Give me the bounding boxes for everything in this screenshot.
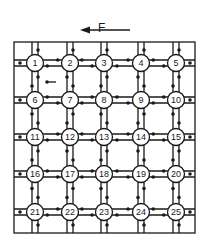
- connector-dot: [30, 112, 34, 116]
- node-14: 14: [133, 129, 150, 146]
- node-19: 19: [133, 166, 150, 183]
- node-label: 21: [30, 207, 40, 217]
- connector-dot: [99, 84, 103, 88]
- arrow-head-icon: [80, 27, 90, 34]
- connector-dot: [142, 112, 146, 116]
- node-17: 17: [62, 166, 79, 183]
- connector-dot: [177, 149, 181, 153]
- node-20: 20: [168, 166, 185, 183]
- connector-dot: [56, 58, 60, 62]
- connector-dot: [71, 187, 75, 191]
- connector-dot: [36, 121, 40, 125]
- node-13: 13: [96, 129, 113, 146]
- connector-dot: [90, 169, 94, 173]
- connector-dot: [45, 213, 49, 217]
- connector-dot: [188, 135, 192, 139]
- connector-dot: [71, 223, 75, 227]
- connector-dot: [151, 101, 155, 105]
- connector-dot: [71, 84, 75, 88]
- connector-dot: [30, 158, 34, 162]
- node-label: 7: [67, 95, 72, 105]
- connector-dot: [99, 158, 103, 162]
- node-10: 10: [168, 92, 185, 109]
- node-label: 16: [30, 169, 40, 179]
- connector-dot: [99, 187, 103, 191]
- connector-dot: [30, 187, 34, 191]
- connector-dot: [136, 149, 140, 153]
- node-label: 23: [99, 207, 109, 217]
- connector-dot: [105, 196, 109, 200]
- node-label: 10: [171, 95, 181, 105]
- node-2: 2: [62, 55, 79, 72]
- connector-dot: [90, 64, 94, 68]
- node-label: 20: [171, 169, 181, 179]
- connector-dot: [162, 138, 166, 142]
- node-5: 5: [168, 55, 185, 72]
- node-label: 8: [101, 95, 106, 105]
- connector-dot: [105, 149, 109, 153]
- force-indicator: F: [80, 21, 130, 35]
- node-label: 17: [65, 169, 75, 179]
- connector-dot: [142, 187, 146, 191]
- connector-dot: [36, 48, 40, 52]
- connector-dot: [177, 75, 181, 79]
- connector-dot: [115, 95, 119, 99]
- connector-dot: [136, 75, 140, 79]
- node-label: 15: [171, 132, 181, 142]
- connector-dot: [162, 64, 166, 68]
- node-label: 2: [67, 58, 72, 68]
- connector-dot: [126, 58, 130, 62]
- node-23: 23: [96, 204, 113, 221]
- connector-dot: [171, 187, 175, 191]
- node-15: 15: [168, 129, 185, 146]
- connector-dot: [188, 61, 192, 65]
- connector-dot: [142, 84, 146, 88]
- node-12: 12: [62, 129, 79, 146]
- node-7: 7: [62, 92, 79, 109]
- node-25: 25: [168, 204, 185, 221]
- node-11: 11: [27, 129, 44, 146]
- connector-dot: [56, 207, 60, 211]
- connector-dot: [90, 213, 94, 217]
- connector-dot: [126, 175, 130, 179]
- node-label: 12: [65, 132, 75, 142]
- connector-dot: [151, 58, 155, 62]
- connector-dot: [90, 95, 94, 99]
- connector-dot: [136, 196, 140, 200]
- node-24: 24: [133, 204, 150, 221]
- grid-network-diagram: F 12345678910111213141516171819202122232…: [0, 0, 208, 246]
- node-label: 24: [136, 207, 146, 217]
- node-label: 18: [99, 169, 109, 179]
- connector-dot: [56, 132, 60, 136]
- node-label: 13: [99, 132, 109, 142]
- node-6: 6: [27, 92, 44, 109]
- connector-dot: [171, 84, 175, 88]
- connector-dot: [115, 169, 119, 173]
- connector-dot: [18, 210, 22, 214]
- connector-dot: [30, 84, 34, 88]
- node-4: 4: [133, 55, 150, 72]
- connector-dot: [90, 138, 94, 142]
- connector-dot: [188, 210, 192, 214]
- connector-dot: [115, 213, 119, 217]
- connector-dot: [80, 58, 84, 62]
- connector-dot: [18, 172, 22, 176]
- connector-dot: [162, 213, 166, 217]
- connector-dot: [177, 48, 181, 52]
- connector-dot: [188, 172, 192, 176]
- node-label: 6: [32, 95, 37, 105]
- connector-dot: [71, 112, 75, 116]
- connector-dot: [115, 64, 119, 68]
- connector-dot: [71, 48, 75, 52]
- connector-dot: [36, 149, 40, 153]
- connector-dot: [188, 98, 192, 102]
- connector-dot: [162, 95, 166, 99]
- connector-dot: [80, 101, 84, 105]
- node-18: 18: [96, 166, 113, 183]
- connector-dot: [45, 138, 49, 142]
- connector-dot: [105, 75, 109, 79]
- connector-dot: [171, 112, 175, 116]
- connector-dot: [65, 196, 69, 200]
- connector-dot: [105, 48, 109, 52]
- connector-dot: [171, 158, 175, 162]
